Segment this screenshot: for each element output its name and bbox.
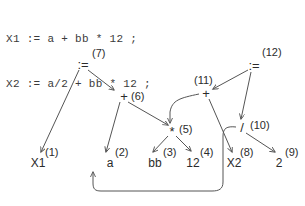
edge-n7-n6 <box>88 70 114 90</box>
node-plus-11: + <box>202 87 210 100</box>
edge-n5-l4 <box>176 136 191 151</box>
edge-n10-l2 <box>93 127 236 191</box>
node-number-12: (12) <box>262 47 282 58</box>
node-times-5: * <box>169 125 174 138</box>
leaf-x1: X1 <box>31 157 46 169</box>
edge-n11-n5 <box>170 94 199 123</box>
edge-n6-l2 <box>106 102 120 152</box>
leaf-12: 12 <box>186 157 199 169</box>
node-divide-10: / <box>240 121 244 134</box>
node-assign-12: := <box>248 59 259 72</box>
node-assign-7: := <box>77 58 88 71</box>
edge-n7-l1 <box>41 70 79 152</box>
node-number-2: (2) <box>115 147 128 158</box>
dag-figure: X1 := a + bb * 12 ; X2 := a/2 + bb * 12 … <box>0 0 305 206</box>
node-number-9: (9) <box>285 147 298 158</box>
node-number-1: (1) <box>45 147 58 158</box>
node-number-3: (3) <box>163 147 176 158</box>
node-number-6: (6) <box>131 91 144 102</box>
leaf-a: a <box>107 157 114 169</box>
edge-n11-l8 <box>209 99 232 152</box>
leaf-x2: X2 <box>227 157 242 169</box>
edge-n6-n5 <box>128 102 168 125</box>
node-plus-6: + <box>120 90 128 103</box>
node-number-5: (5) <box>179 124 192 135</box>
node-number-11: (11) <box>194 75 213 86</box>
edge-n12-n10 <box>241 72 251 119</box>
edge-n12-n11 <box>213 70 248 89</box>
node-number-10: (10) <box>250 120 270 131</box>
leaf-bb: bb <box>148 157 161 169</box>
node-number-7: (7) <box>92 48 105 59</box>
node-number-4: (4) <box>200 147 213 158</box>
leaf-2: 2 <box>276 157 283 169</box>
node-number-8: (8) <box>240 147 253 158</box>
dag-edges <box>0 0 305 206</box>
